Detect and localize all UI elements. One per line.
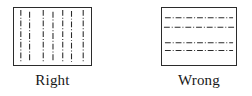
right-example-box [13,7,92,66]
panel-right-example [13,7,92,66]
caption-right-example: Right [13,70,92,90]
vertical-dash-dot-hatch [14,8,91,65]
panel-wrong-example [161,7,237,66]
line-style-comparison-figure: Right Wrong [0,0,252,96]
horizontal-dash-dot-hatch [162,8,236,65]
wrong-example-box [161,7,237,66]
caption-wrong-example: Wrong [161,70,237,90]
